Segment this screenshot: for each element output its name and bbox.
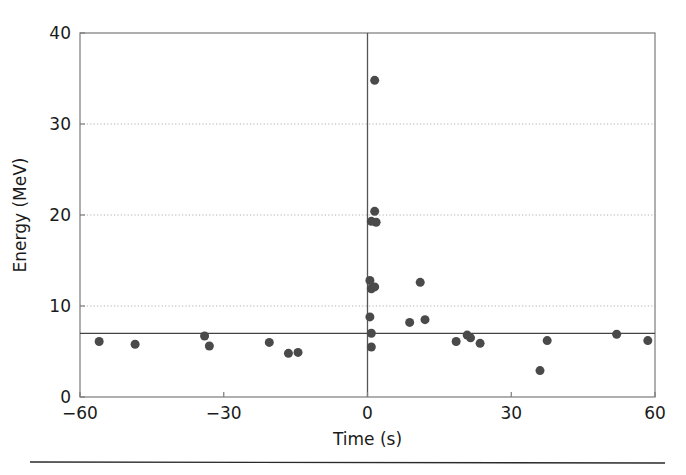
data-point (95, 337, 104, 346)
data-point (370, 76, 379, 85)
data-point (416, 278, 425, 287)
data-point (367, 284, 376, 293)
data-point (372, 218, 381, 227)
data-point (421, 315, 430, 324)
data-point (200, 332, 209, 341)
scatter-plot: −60−3003060010203040Time (s)Energy (MeV) (0, 0, 686, 475)
y-axis-title: Energy (MeV) (10, 158, 30, 273)
x-axis-title: Time (s) (332, 429, 402, 449)
xtick-label--30: −30 (206, 403, 242, 423)
ytick-label-10: 10 (49, 296, 71, 316)
data-point (476, 339, 485, 348)
data-point (365, 312, 374, 321)
xtick-label-60: 60 (644, 403, 666, 423)
data-point (452, 337, 461, 346)
data-point (466, 333, 475, 342)
data-point (405, 318, 414, 327)
figure-container: −60−3003060010203040Time (s)Energy (MeV) (0, 0, 686, 475)
data-point (367, 329, 376, 338)
data-point (265, 338, 274, 347)
caption-rule (30, 462, 665, 463)
xtick-label-0: 0 (362, 403, 373, 423)
data-point (543, 336, 552, 345)
ytick-label-0: 0 (60, 387, 71, 407)
data-point (294, 348, 303, 357)
data-point (612, 330, 621, 339)
xtick-label-30: 30 (500, 403, 522, 423)
data-point (643, 336, 652, 345)
ytick-label-40: 40 (49, 23, 71, 43)
data-point (205, 342, 214, 351)
data-point (536, 366, 545, 375)
data-point (284, 349, 293, 358)
ytick-label-20: 20 (49, 205, 71, 225)
ytick-label-30: 30 (49, 114, 71, 134)
data-point (370, 207, 379, 216)
data-point (367, 342, 376, 351)
data-point (131, 340, 140, 349)
